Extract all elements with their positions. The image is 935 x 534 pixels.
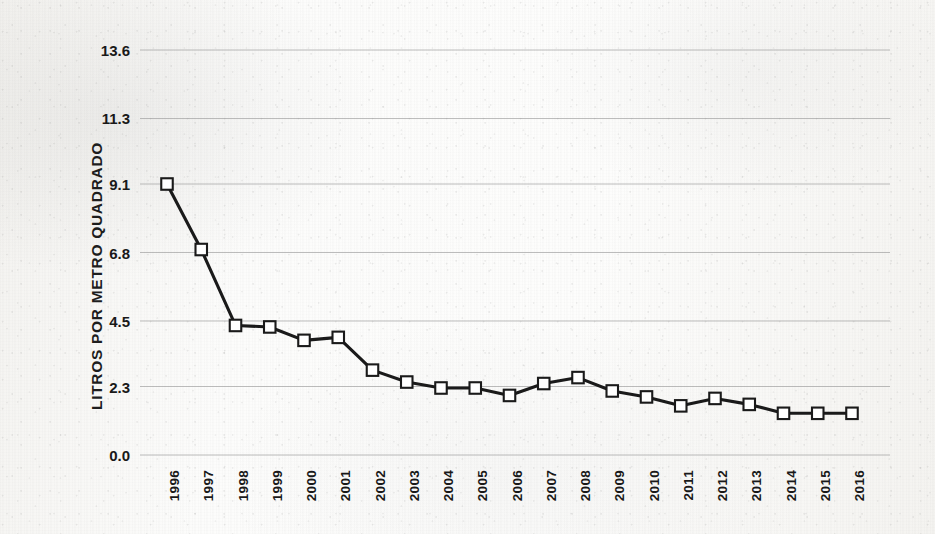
y-axis-tick-label: 9.1 (72, 176, 130, 193)
data-point-marker (572, 372, 584, 384)
y-axis-tick-label: 2.3 (72, 378, 130, 395)
x-axis-tick-label: 2014 (784, 470, 799, 501)
y-axis-tick-label: 4.5 (72, 312, 130, 329)
data-point-marker (538, 378, 550, 390)
data-point-marker (298, 335, 310, 347)
x-axis-tick-label: 1999 (270, 470, 285, 501)
data-point-marker (709, 393, 721, 405)
data-point-marker (435, 382, 447, 394)
x-axis-tick-label: 2012 (715, 470, 730, 501)
data-point-marker (367, 364, 379, 376)
x-axis-tick-label: 1998 (236, 470, 251, 501)
data-point-marker (607, 385, 619, 397)
x-axis-tick-label: 2000 (304, 470, 319, 501)
x-axis-tick-label: 2016 (852, 470, 867, 501)
data-point-marker (675, 400, 687, 412)
data-point-marker (161, 178, 173, 190)
data-point-marker (196, 244, 208, 256)
data-point-marker (641, 391, 653, 403)
y-axis-tick-label: 13.6 (72, 42, 130, 59)
data-point-marker (744, 399, 756, 411)
x-axis-tick-label: 2006 (510, 470, 525, 501)
line-chart-plot: 13.611.39.16.84.52.30.0 1996199719981999… (0, 0, 935, 534)
data-point-marker (812, 408, 824, 420)
x-axis-tick-label: 1996 (167, 470, 182, 501)
data-point-marker (504, 390, 516, 402)
y-axis-tick-label: 6.8 (72, 244, 130, 261)
x-axis-tick-label: 2009 (612, 470, 627, 501)
x-axis-tick-label: 2004 (441, 470, 456, 501)
x-axis-tick-label: 2005 (475, 470, 490, 501)
x-axis-tick-label: 2010 (647, 470, 662, 501)
data-point-marker (401, 376, 413, 388)
data-point-marker (264, 321, 276, 333)
x-axis-tick-label: 1997 (201, 470, 216, 501)
data-line (167, 184, 852, 413)
x-axis-tick-label: 2011 (681, 470, 696, 501)
x-axis-tick-label: 2002 (373, 470, 388, 501)
data-point-marker (230, 320, 242, 332)
data-line-group (167, 184, 852, 413)
x-axis-tick-label: 2001 (338, 470, 353, 501)
data-point-marker (470, 382, 482, 394)
x-axis-tick-label: 2013 (749, 470, 764, 501)
chart-svg (0, 0, 935, 534)
y-axis-tick-label: 0.0 (72, 447, 130, 464)
y-axis-tick-label: 11.3 (72, 110, 130, 127)
data-point-marker (778, 408, 790, 420)
data-point-marker (333, 332, 345, 344)
x-axis-tick-label: 2008 (578, 470, 593, 501)
x-axis-tick-label: 2015 (818, 470, 833, 501)
chart-page: LITROS POR METRO QUADRADO 13.611.39.16.8… (0, 0, 935, 534)
x-axis-tick-label: 2007 (544, 470, 559, 501)
x-axis-tick-label: 2003 (407, 470, 422, 501)
data-points-group (161, 178, 858, 419)
data-point-marker (846, 408, 858, 420)
